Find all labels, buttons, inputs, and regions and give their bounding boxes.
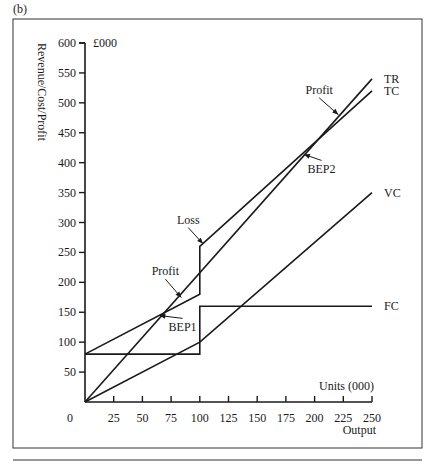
y-tick-label: 450: [58, 126, 76, 140]
annotation-label-profit: Profit: [152, 264, 180, 278]
y-unit-label: £000: [93, 36, 117, 50]
y-tick-label: 50: [64, 365, 76, 379]
series-vc-line: [85, 193, 372, 402]
y-tick-label: 150: [58, 305, 76, 319]
x-unit-label: Units (000): [319, 379, 374, 393]
x-tick-label: 200: [306, 411, 324, 425]
series-tc-line: [85, 91, 372, 354]
annotation-label-bep2: BEP2: [307, 162, 335, 176]
series-lines: [85, 79, 372, 402]
y-tick-label: 600: [58, 36, 76, 50]
x-tick-label: 175: [277, 411, 295, 425]
annotations: TRTCVCFCBEP1BEP2ProfitLossProfit: [152, 72, 401, 334]
break-even-chart: 5010015020025030035040045050055060025507…: [0, 0, 434, 464]
y-tick-label: 350: [58, 186, 76, 200]
series-label-tc: TC: [384, 84, 399, 98]
series-label-fc: FC: [384, 299, 399, 313]
annotation-label-bep1: BEP1: [169, 320, 197, 334]
y-tick-label: 200: [58, 275, 76, 289]
annotation-label-loss: Loss: [177, 213, 200, 227]
y-tick-label: 300: [58, 216, 76, 230]
y-tick-label: 550: [58, 66, 76, 80]
x-tick-label: 100: [191, 411, 209, 425]
x-tick-label: 150: [248, 411, 266, 425]
x-tick-label: 25: [108, 411, 120, 425]
y-axis-title: Revenue/Cost/Profit: [35, 43, 49, 142]
y-tick-label: 400: [58, 156, 76, 170]
y-tick-label: 100: [58, 335, 76, 349]
y-tick-label: 500: [58, 96, 76, 110]
zero-label: 0: [67, 411, 73, 425]
x-tick-label: 50: [136, 411, 148, 425]
arrowhead-icon: [304, 154, 310, 159]
annotation-label-profit: Profit: [306, 83, 334, 97]
y-tick-label: 250: [58, 245, 76, 259]
x-axis-title: Output: [343, 423, 377, 437]
x-tick-label: 125: [220, 411, 238, 425]
x-tick-label: 75: [165, 411, 177, 425]
series-label-vc: VC: [384, 186, 401, 200]
series-fc-line: [85, 306, 372, 354]
